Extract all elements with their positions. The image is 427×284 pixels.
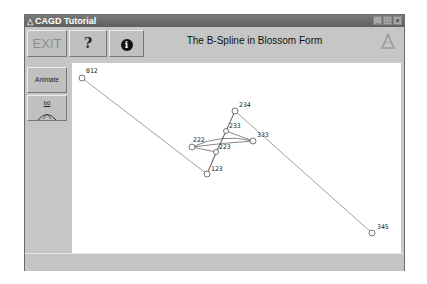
control-point-223[interactable]: 223 — [214, 143, 231, 155]
control-point-345[interactable]: 345 — [369, 223, 389, 236]
page-title: The B-Spline in Blossom Form — [145, 27, 364, 61]
close-icon[interactable]: × — [393, 16, 402, 25]
b0-button[interactable]: b0 — [27, 95, 67, 121]
title-bar[interactable]: △ CAGD Tutorial _ □ × — [25, 15, 404, 27]
window-title: CAGD Tutorial — [35, 15, 96, 27]
sidebar: Animate b0 — [25, 61, 71, 253]
info-icon: i — [121, 39, 133, 51]
control-point-234[interactable]: 234 — [232, 101, 251, 114]
drawing-canvas[interactable]: 012 123 223 222 233 333 — [72, 63, 401, 253]
svg-text:234: 234 — [239, 101, 251, 109]
svg-text:223: 223 — [219, 143, 231, 151]
animate-button[interactable]: Animate — [27, 67, 67, 93]
minimize-icon[interactable]: _ — [373, 16, 382, 25]
help-button[interactable]: ? — [69, 30, 107, 57]
window-controls: _ □ × — [373, 16, 402, 25]
cagd-logo-icon — [380, 33, 396, 51]
control-point-333[interactable]: 333 — [250, 131, 269, 144]
svg-text:233: 233 — [229, 122, 241, 130]
control-point-012[interactable]: 012 — [79, 67, 98, 81]
control-point-233[interactable]: 233 — [224, 122, 241, 134]
svg-text:012: 012 — [86, 67, 98, 75]
control-polygon — [82, 78, 372, 233]
svg-text:222: 222 — [193, 136, 205, 144]
blossom-diagram[interactable]: 012 123 223 222 233 333 — [72, 63, 401, 253]
control-point-123[interactable]: 123 — [204, 165, 223, 177]
svg-text:333: 333 — [257, 131, 269, 139]
info-button[interactable]: i — [109, 30, 144, 57]
svg-text:123: 123 — [211, 165, 223, 173]
svg-text:345: 345 — [377, 223, 389, 231]
app-window: △ CAGD Tutorial _ □ × EXIT ? i The B-Spl… — [24, 14, 405, 271]
exit-button[interactable]: EXIT — [27, 30, 67, 57]
b0-label: b0 — [28, 99, 66, 107]
toolbar: EXIT ? i The B-Spline in Blossom Form — [25, 27, 404, 61]
curve-icon — [37, 111, 57, 121]
maximize-icon[interactable]: □ — [383, 16, 392, 25]
status-bar — [25, 253, 404, 271]
